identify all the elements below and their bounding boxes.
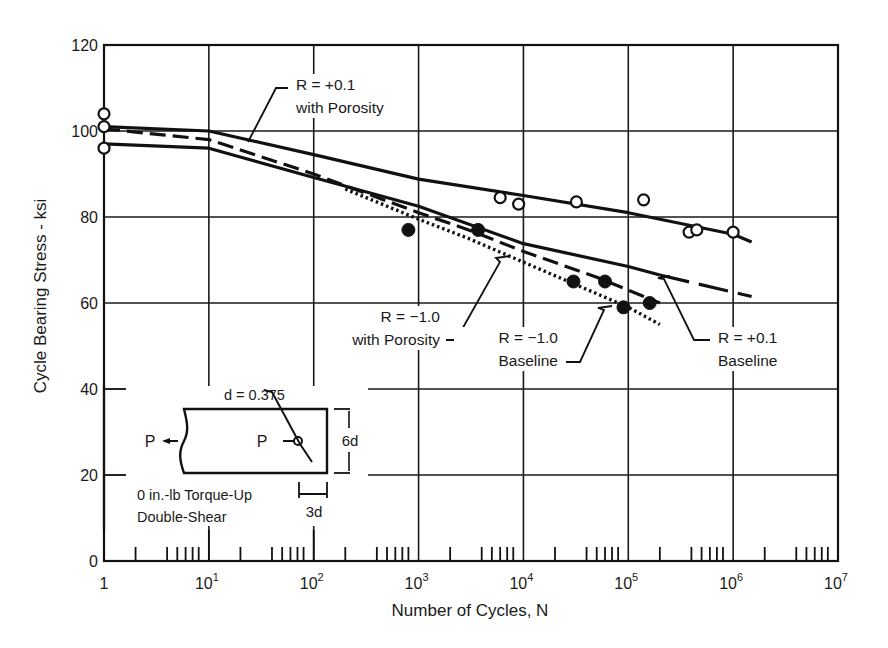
x-axis-label: Number of Cycles, N bbox=[392, 601, 549, 620]
annotation-label: with Porosity bbox=[295, 99, 384, 116]
filled-circle-point bbox=[643, 297, 656, 310]
y-tick-label: 0 bbox=[89, 553, 98, 570]
x-tick-label: 1 bbox=[100, 575, 109, 592]
annotation-label: R = −1.0 bbox=[499, 329, 559, 346]
annotation-label: Baseline bbox=[499, 352, 558, 369]
filled-circle-point bbox=[472, 223, 485, 236]
series-line-r01-baseline bbox=[104, 144, 660, 275]
inset-bg bbox=[126, 386, 368, 526]
y-tick-label: 120 bbox=[71, 37, 98, 54]
load-label-left: P bbox=[145, 433, 156, 450]
annotation-label: R = +0.1 bbox=[718, 329, 777, 346]
annotation-label: Baseline bbox=[718, 352, 777, 369]
x-tick-label: 103 bbox=[405, 571, 429, 592]
x-tick-label: 106 bbox=[719, 571, 743, 592]
y-tick-label: 80 bbox=[80, 209, 98, 226]
edge-dim-label: 3d bbox=[306, 503, 323, 520]
open-circle-point bbox=[691, 224, 702, 235]
series-line-r01-baseline-extrapolated bbox=[660, 275, 752, 297]
filled-circle-point bbox=[567, 275, 580, 288]
annotation-leader bbox=[566, 306, 612, 362]
y-tick-label: 40 bbox=[80, 381, 98, 398]
open-circle-point bbox=[99, 108, 110, 119]
annotation-leader bbox=[248, 88, 288, 142]
x-tick-label: 102 bbox=[300, 571, 324, 592]
x-tick-label: 104 bbox=[509, 571, 533, 592]
annotation-label: R = −1.0 bbox=[381, 308, 441, 325]
specimen-inset: PPd = 0.3756d3d0 in.-lb Torque-UpDouble-… bbox=[104, 386, 368, 561]
x-tick-label: 107 bbox=[824, 571, 848, 592]
open-circle-point bbox=[513, 199, 524, 210]
y-axis-label: Cycle Bearing Stress - ksi bbox=[31, 199, 50, 394]
filled-circle-point bbox=[599, 275, 612, 288]
filled-circle-point bbox=[402, 223, 415, 236]
open-circle-point bbox=[99, 143, 110, 154]
annotation-label: with Porosity bbox=[351, 331, 440, 348]
sn-fatigue-chart: 1101102103104105106107020406080100120 R … bbox=[0, 0, 888, 648]
y-tick-label: 100 bbox=[71, 123, 98, 140]
x-tick-label: 105 bbox=[614, 571, 638, 592]
filled-circle-point bbox=[617, 301, 630, 314]
inset-caption-line1: 0 in.-lb Torque-Up bbox=[137, 487, 252, 503]
series-line bbox=[104, 127, 752, 242]
y-tick-label: 20 bbox=[80, 467, 98, 484]
series-lines bbox=[104, 127, 752, 325]
inset-caption-line2: Double-Shear bbox=[137, 509, 227, 525]
x-tick-label: 101 bbox=[195, 571, 219, 592]
open-circle-point bbox=[99, 121, 110, 132]
open-circle-point bbox=[728, 227, 739, 238]
open-circle-point bbox=[495, 192, 506, 203]
height-dim-label: 6d bbox=[342, 432, 359, 449]
open-circle-point bbox=[638, 194, 649, 205]
y-tick-label: 60 bbox=[80, 295, 98, 312]
annotations: R = +0.1with PorosityR = −1.0with Porosi… bbox=[248, 74, 824, 371]
diameter-label: d = 0.375 bbox=[224, 387, 285, 403]
load-label-right: P bbox=[257, 433, 268, 450]
open-circle-point bbox=[571, 196, 582, 207]
annotation-label: R = +0.1 bbox=[296, 76, 355, 93]
